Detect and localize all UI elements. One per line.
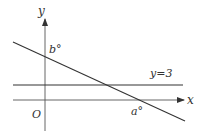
x-intercept-label: a° xyxy=(131,105,143,118)
origin-label: O xyxy=(32,108,41,121)
y-intercept-label: b° xyxy=(49,43,62,56)
y-axis-label: y xyxy=(37,4,45,18)
coordinate-diagram: y x O b° a° y=3 xyxy=(0,0,204,133)
x-axis-label: x xyxy=(187,93,194,107)
horizontal-line-label: y=3 xyxy=(149,67,172,80)
